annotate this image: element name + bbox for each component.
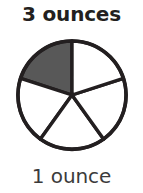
pie-chart	[0, 33, 143, 160]
unit-label: 1 ounce	[0, 166, 143, 186]
page-title: 3 ounces	[0, 4, 143, 24]
fraction-pie-figure: 3 ounces 1 ounce	[0, 0, 143, 193]
